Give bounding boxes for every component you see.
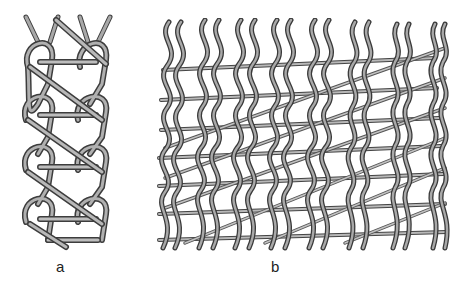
knit-mesh-b-graphic	[155, 18, 455, 254]
knit-loops-a-graphic	[18, 12, 114, 252]
panel-label-a: a	[56, 258, 64, 275]
panel-a-knit-diagram	[18, 12, 114, 252]
panel-label-b: b	[271, 258, 279, 275]
panel-b-knit-mesh	[155, 18, 455, 254]
